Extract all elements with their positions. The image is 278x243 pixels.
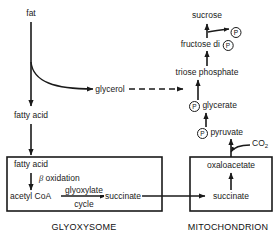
- node-succinate-mitochondrion: succinate: [212, 192, 250, 201]
- node-oxaloacetate: oxaloacetate: [206, 161, 256, 170]
- label-glyoxylate: glyoxylate: [64, 186, 104, 195]
- phosphate-circle-icon: P: [189, 101, 200, 112]
- node-fatty-acid-glyoxysome: fatty acid: [13, 160, 49, 169]
- pathway-diagram: fat glycerol fatty acid fatty acid β oxi…: [0, 0, 278, 243]
- label-beta-oxidation: β oxidation: [38, 174, 81, 183]
- arrow-co2-release: [231, 145, 250, 152]
- p-pyruvate-text: pyruvate: [210, 127, 243, 137]
- organelle-label-glyoxysome: GLYOXYSOME: [52, 222, 117, 232]
- node-co2: CO2: [251, 139, 269, 149]
- node-sucrose: sucrose: [191, 11, 223, 20]
- node-fructose-di-p: fructose di P: [180, 40, 235, 51]
- node-glycerol: glycerol: [94, 85, 125, 94]
- organelle-label-mitochondrion: MITOCHONDRION: [188, 222, 268, 232]
- node-fat: fat: [25, 9, 36, 18]
- released-phosphate-circle-icon: P: [231, 20, 242, 38]
- label-cycle: cycle: [73, 200, 94, 209]
- oxidation-text: oxidation: [46, 173, 80, 183]
- fructose-di-text: fructose di: [181, 39, 220, 49]
- node-p-pyruvate: P pyruvate: [196, 128, 244, 139]
- phosphate-circle-icon: P: [222, 40, 233, 51]
- co2-text: CO: [252, 138, 265, 148]
- node-p-glycerate: P glycerate: [188, 101, 238, 112]
- node-acetyl-coa: acetyl CoA: [9, 192, 52, 201]
- node-fatty-acid-cytosol: fatty acid: [13, 111, 49, 120]
- co2-subscript: 2: [265, 143, 268, 149]
- arrow-fat-to-glycerol: [31, 62, 93, 89]
- node-succinate-glyoxysome: succinate: [104, 192, 142, 201]
- p-glycerate-text: glycerate: [202, 100, 237, 110]
- arrow-phosphate-release: [208, 29, 229, 32]
- phosphate-circle-icon: P: [197, 128, 208, 139]
- node-triose-phosphate: triose phosphate: [175, 68, 240, 77]
